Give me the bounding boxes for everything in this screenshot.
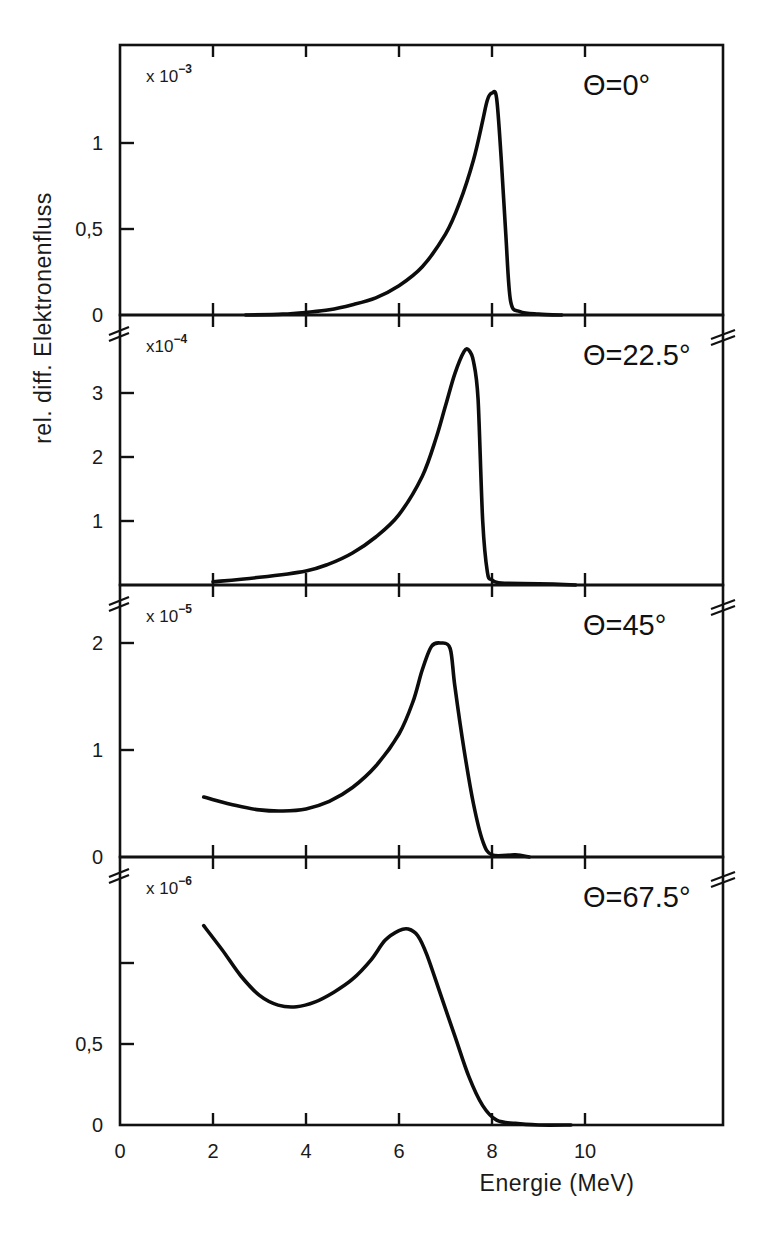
panel-theta-22-5: 123x10−4Θ=22.5° [92, 315, 735, 585]
x-axis-title: Energie (MeV) [480, 1170, 635, 1196]
scale-factor-label: x 10−6 [146, 874, 192, 898]
y-tick-label: 1 [92, 739, 103, 761]
scale-factor-label: x10−4 [146, 332, 187, 356]
y-tick-label: 0 [92, 304, 103, 326]
y-tick-label: 3 [92, 382, 103, 404]
panel-theta-67-5: 00,5x 10−6Θ=67.5° [75, 857, 735, 1136]
spectrum-curve [204, 926, 571, 1125]
angle-label: Θ=22.5° [583, 339, 691, 371]
x-tick-label: 4 [300, 1140, 311, 1162]
x-tick-label: 10 [574, 1140, 596, 1162]
y-tick-label: 1 [92, 510, 103, 532]
spectrum-curve [213, 349, 576, 585]
x-tick-label: 6 [393, 1140, 404, 1162]
panel-theta-0: 00,51x 10−3Θ=0° [75, 45, 723, 326]
y-tick-label: 2 [92, 446, 103, 468]
y-tick-label: 0 [92, 846, 103, 868]
scale-factor-label: x 10−5 [146, 602, 192, 626]
x-tick-label: 2 [207, 1140, 218, 1162]
panel-stack: 00,51x 10−3Θ=0°123x10−4Θ=22.5°012x 10−5Θ… [75, 45, 735, 1136]
y-tick-label: 1 [92, 132, 103, 154]
y-tick-label: 0,5 [75, 1033, 103, 1055]
spectrum-curve [204, 643, 530, 857]
angle-label: Θ=0° [583, 69, 650, 101]
x-tick-labels: 0246810 [114, 1140, 596, 1162]
x-tick-label: 8 [486, 1140, 497, 1162]
spectra-figure: rel. diff. Elektronenfluss 00,51x 10−3Θ=… [0, 0, 768, 1251]
scale-factor-label: x 10−3 [146, 62, 192, 86]
y-tick-label: 0 [92, 1114, 103, 1136]
y-tick-label: 2 [92, 632, 103, 654]
angle-label: Θ=67.5° [583, 881, 691, 913]
y-axis-title: rel. diff. Elektronenfluss [30, 192, 56, 444]
angle-label: Θ=45° [583, 609, 666, 641]
x-tick-label: 0 [114, 1140, 125, 1162]
spectrum-curve [246, 92, 562, 315]
y-tick-label: 0,5 [75, 218, 103, 240]
panel-theta-45: 012x 10−5Θ=45° [92, 585, 735, 868]
